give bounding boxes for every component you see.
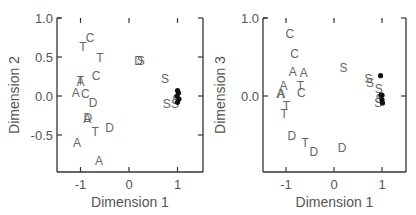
data-point-s: S [163, 97, 171, 111]
data-point-t: T [96, 51, 104, 65]
data-point-s: S [340, 61, 348, 75]
y-tick-label: 1.0 [35, 11, 53, 26]
filled-dot [380, 100, 385, 105]
data-point-c: C [86, 31, 95, 45]
x-tick-label: 1 [174, 177, 181, 192]
data-point-a: A [72, 86, 80, 100]
data-point-a: A [73, 136, 81, 150]
x-axis-label: Dimension 1 [91, 194, 169, 210]
data-point-a: A [95, 154, 103, 168]
x-tick-label: 0 [330, 177, 337, 192]
data-point-d: D [310, 145, 319, 159]
data-point-c: C [290, 47, 299, 61]
data-point-t: T [280, 107, 288, 121]
x-tick-label: 1 [378, 177, 385, 192]
y-axis-label: Dimension 3 [212, 56, 228, 134]
data-point-d: D [287, 129, 296, 143]
data-point-t: T [79, 40, 87, 54]
y-tick-label: -0.5 [31, 128, 53, 143]
chart-panel-dim1-dim3: -1011.00.0Dimension 1Dimension 3CCAAATCA… [206, 0, 416, 215]
data-point-d: D [338, 141, 347, 155]
filled-dot [175, 100, 180, 105]
x-tick-label: 0 [125, 177, 132, 192]
data-point-t: T [302, 136, 310, 150]
filled-points [174, 88, 181, 105]
x-tick-label: -1 [75, 177, 87, 192]
y-tick-label: 0.0 [35, 89, 53, 104]
x-axis-label: Dimension 1 [296, 194, 374, 210]
x-tick-label: -1 [280, 177, 292, 192]
data-point-s: S [137, 54, 145, 68]
y-tick-label: 1.0 [241, 11, 259, 26]
data-point-d: D [105, 121, 114, 135]
scatter-plot-dim1-vs-dim3: -1011.00.0Dimension 1Dimension 3CCAAATCA… [206, 0, 416, 215]
scatter-plot-dim1-vs-dim2: -1011.00.50.0-0.5Dimension 1Dimension 2C… [0, 0, 210, 215]
data-point-a: A [83, 112, 91, 126]
data-point-c: C [297, 86, 306, 100]
y-tick-label: 0.5 [35, 50, 53, 65]
y-axis-label: Dimension 2 [6, 56, 22, 134]
filled-dot [379, 93, 384, 98]
letter-points: CCAAATCAATTDTDDSSSSSS [276, 27, 383, 159]
data-point-c: C [286, 27, 295, 41]
letter-points: CTTCATACDDATDAADSSSSS [72, 31, 180, 168]
filled-dot [378, 73, 383, 78]
data-point-s: S [366, 76, 374, 90]
y-tick-label: 0.0 [241, 89, 259, 104]
data-point-c: C [92, 69, 101, 83]
data-point-s: S [161, 72, 169, 86]
chart-panel-dim1-dim2: -1011.00.50.0-0.5Dimension 1Dimension 2C… [0, 0, 210, 215]
data-point-a: A [289, 65, 297, 79]
data-point-t: T [91, 125, 99, 139]
data-point-d: D [89, 96, 98, 110]
